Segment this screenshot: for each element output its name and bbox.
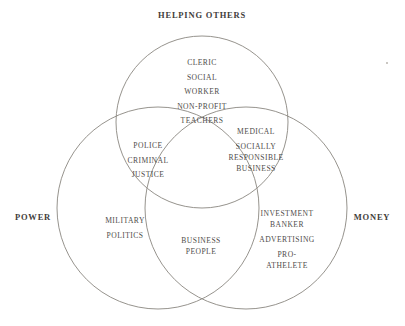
label-money: MONEY [354,212,391,223]
label-power: POWER [15,212,51,223]
venn-circles [0,0,405,326]
label-helping-others: HELPING OTHERS [158,10,246,21]
region-power-only: MILITARY POLITICS [105,215,145,241]
region-helping-others-only: CLERIC SOCIAL WORKER NON-PROFIT TEACHERS [177,57,227,126]
region-money-only: INVESTMENT BANKER ADVERTISING PRO- ATHEL… [259,208,315,271]
venn-diagram-figure: HELPING OTHERS POWER MONEY CLERIC SOCIAL… [0,0,405,326]
stray-speck [386,62,388,64]
region-helping-others-and-money: MEDICAL SOCIALLY RESPONSIBLE BUSINESS [228,126,283,174]
region-all-three: BUSINESS PEOPLE [181,235,220,257]
region-helping-others-and-power: POLICE CRIMINAL JUSTICE [127,140,168,180]
